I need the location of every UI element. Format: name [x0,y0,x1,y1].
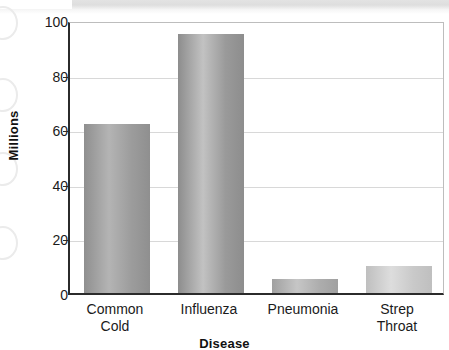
scan-band-artifact [72,0,449,9]
x-axis-title: Disease [0,336,449,350]
chart-page: Millions 020406080100 CommonColdInfluenz… [0,0,449,350]
y-axis-tick-label: 40 [26,179,68,193]
x-axis-tick-label: StrepThroat [350,301,444,335]
y-axis-tick-mark [63,240,68,241]
x-axis-tick-label-line: Throat [350,318,444,335]
y-axis: Millions 020406080100 [0,0,68,350]
plot-area [68,22,444,295]
bar [272,279,338,293]
x-axis-tick-label-line: Common [68,301,162,318]
x-axis-tick-label-line: Strep [350,301,444,318]
y-axis-tick-label: 100 [26,15,68,29]
x-axis-tick-label-line: Influenza [162,301,256,318]
y-axis-tick-mark [63,77,68,78]
x-axis-tick-label: Pneumonia [256,301,350,318]
y-axis-title: Millions [6,99,21,173]
bar [84,124,150,293]
x-axis-tick-label-line: Pneumonia [256,301,350,318]
y-axis-tick-label: 60 [26,124,68,138]
x-axis-tick-label-line: Cold [68,318,162,335]
y-axis-tick-label: 20 [26,233,68,247]
gridline [70,78,443,79]
y-axis-tick-label: 0 [26,288,68,302]
y-axis-tick-mark [63,186,68,187]
x-axis-tick-label: Influenza [162,301,256,318]
y-axis-tick-label: 80 [26,70,68,84]
x-axis-tick-label: CommonCold [68,301,162,335]
bar [366,266,432,293]
bar [178,34,244,293]
y-axis-tick-mark [63,131,68,132]
